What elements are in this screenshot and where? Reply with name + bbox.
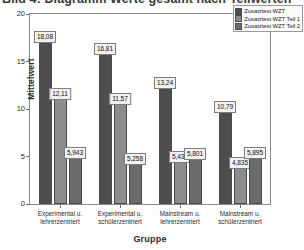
legend-item-label: Zusatztest WZT Teil 2 bbox=[244, 23, 300, 29]
legend-swatch-icon bbox=[235, 23, 242, 30]
x-axis-tick-mark bbox=[180, 205, 181, 208]
x-axis-title: Gruppe bbox=[29, 234, 271, 244]
y-axis-tick: 0 bbox=[0, 199, 29, 209]
bar-value-label: 11,57 bbox=[109, 93, 131, 105]
bar-value-label: 18,08 bbox=[34, 31, 56, 43]
legend-swatch-icon bbox=[235, 8, 242, 15]
y-axis-tick-mark bbox=[26, 156, 29, 157]
bar-group: 16,8111,575,258 bbox=[90, 14, 150, 204]
legend-item-label: Zusatztest WZT Teil 1 bbox=[244, 16, 300, 22]
x-axis-category-label: Experimental u. lehrerzentriert bbox=[29, 210, 91, 225]
bar-value-label: 5,801 bbox=[184, 148, 206, 160]
y-axis-tick-label: 10 bbox=[17, 104, 25, 113]
y-axis-tick: 20 bbox=[0, 9, 29, 19]
bar-value-label: 16,81 bbox=[94, 43, 116, 55]
legend-item[interactable]: Zusatztest WZT Teil 2 bbox=[235, 23, 300, 30]
y-axis-tick: 5 bbox=[0, 152, 29, 162]
y-axis-tick-label: 20 bbox=[17, 9, 25, 18]
x-axis-category-label: Mainstream u. lehrerzentriert bbox=[149, 210, 211, 225]
bar[interactable] bbox=[114, 94, 127, 204]
x-axis-category-label: Experimental u. schülerzentriert bbox=[89, 210, 151, 225]
bar[interactable] bbox=[219, 102, 232, 205]
bar-value-label: 10,79 bbox=[214, 101, 236, 113]
bar-value-label: 5,895 bbox=[244, 147, 266, 159]
y-axis-tick-mark bbox=[26, 204, 29, 205]
bar[interactable] bbox=[159, 78, 172, 204]
y-axis-tick-label: 15 bbox=[17, 57, 25, 66]
bar-value-label: 12,11 bbox=[49, 88, 71, 100]
chart-root: Bild 4: Diagramm Werte gesamt nach Teilw… bbox=[0, 0, 304, 250]
y-axis-tick-mark bbox=[26, 14, 29, 15]
bar-group: 18,0812,115,943 bbox=[30, 14, 90, 204]
y-axis-tick: 15 bbox=[0, 57, 29, 67]
bar-value-label: 5,258 bbox=[124, 153, 146, 165]
x-axis-tick-mark bbox=[120, 205, 121, 208]
y-axis-tick-label: 5 bbox=[21, 152, 25, 161]
bar-group: 10,794,8355,895 bbox=[210, 14, 270, 204]
bar[interactable] bbox=[39, 32, 52, 204]
bar-group: 13,245,4395,801 bbox=[150, 14, 210, 204]
y-axis-tick-mark bbox=[26, 61, 29, 62]
bar-value-label: 13,24 bbox=[154, 77, 176, 89]
bars-layer: 18,0812,115,94316,8111,575,25813,245,439… bbox=[30, 14, 270, 204]
legend-item[interactable]: Zusatztest WZT Teil 1 bbox=[235, 15, 300, 22]
legend: Zusatztest WZT Zusatztest WZT Teil 1 Zus… bbox=[233, 5, 303, 32]
bar-value-label: 5,943 bbox=[64, 147, 86, 159]
y-axis-tick-mark bbox=[26, 109, 29, 110]
x-axis-tick-mark bbox=[240, 205, 241, 208]
x-axis-tick-mark bbox=[60, 205, 61, 208]
y-axis-tick: 10 bbox=[0, 104, 29, 114]
legend-swatch-icon bbox=[235, 15, 242, 22]
legend-item[interactable]: Zusatztest WZT bbox=[235, 8, 300, 15]
bar[interactable] bbox=[99, 44, 112, 204]
legend-item-label: Zusatztest WZT bbox=[244, 8, 285, 14]
x-axis-category-label: Mainstream u. schülerzentriert bbox=[209, 210, 271, 225]
y-axis-tick-label: 0 bbox=[21, 199, 25, 208]
